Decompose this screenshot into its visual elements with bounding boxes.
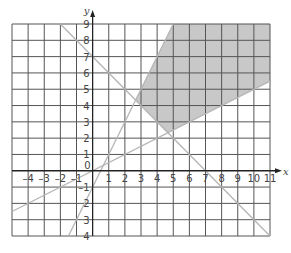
chart: –4–3–2–11234567891011987654321–12340xy xyxy=(0,0,291,253)
y-axis-label: y xyxy=(83,5,90,16)
y-tick-label: 2 xyxy=(83,133,89,144)
y-tick-label: 9 xyxy=(83,19,89,30)
y-tick-label: 5 xyxy=(83,84,89,95)
x-tick-label: 4 xyxy=(154,173,160,184)
y-tick-label: –1 xyxy=(78,182,89,193)
x-tick-label: 11 xyxy=(264,173,277,184)
x-axis-label: x xyxy=(283,166,289,177)
x-tick-label: –3 xyxy=(39,173,50,184)
x-tick-label: 1 xyxy=(106,173,112,184)
x-tick-label: –4 xyxy=(22,173,33,184)
x-tick-label: 9 xyxy=(235,173,241,184)
y-tick-label: 6 xyxy=(83,68,89,79)
x-tick-label: 3 xyxy=(138,173,144,184)
y-axis-arrow xyxy=(90,10,95,17)
y-tick-label: 3 xyxy=(83,215,89,226)
x-tick-label: –2 xyxy=(55,173,66,184)
x-tick-label: 7 xyxy=(202,173,208,184)
y-tick-label: 4 xyxy=(83,101,89,112)
y-tick-label: 7 xyxy=(83,52,89,63)
x-tick-label: 6 xyxy=(186,173,192,184)
y-tick-label: 4 xyxy=(83,231,89,242)
origin-label: 0 xyxy=(84,160,90,171)
y-tick-label: 2 xyxy=(83,198,89,209)
y-tick-label: 8 xyxy=(83,35,89,46)
x-tick-label: 10 xyxy=(248,173,261,184)
x-tick-label: 2 xyxy=(122,173,128,184)
x-tick-label: 5 xyxy=(170,173,176,184)
y-tick-label: 3 xyxy=(83,117,89,128)
x-tick-label: 8 xyxy=(218,173,224,184)
